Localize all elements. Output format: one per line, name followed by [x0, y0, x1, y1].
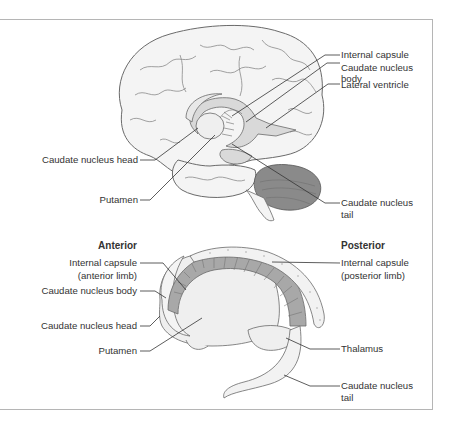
label-caudate-head: Caudate nucleus head: [42, 154, 138, 166]
label-caudate-tail-bottom-line2: tail: [341, 392, 353, 404]
label-putamen: Putamen: [100, 194, 138, 206]
label-ic-anterior-line2: (anterior limb): [78, 270, 137, 282]
heading-anterior: Anterior: [98, 240, 137, 252]
label-caudate-body-bottom: Caudate nucleus body: [42, 285, 137, 297]
label-caudate-tail-line2: tail: [341, 209, 353, 221]
label-caudate-head-bottom: Caudate nucleus head: [41, 320, 137, 332]
label-thalamus: Thalamus: [341, 343, 383, 355]
label-putamen-bottom: Putamen: [99, 345, 137, 357]
label-lateral-ventricle: Lateral ventricle: [341, 79, 409, 91]
heading-posterior: Posterior: [341, 240, 385, 252]
label-ic-posterior: Internal capsule: [341, 257, 409, 269]
label-caudate-tail: Caudate nucleus: [341, 197, 413, 209]
basal-nuclei-illustration: [160, 247, 325, 398]
label-caudate-tail-bottom: Caudate nucleus: [341, 380, 413, 392]
label-ic-anterior: Internal capsule: [69, 257, 137, 269]
label-internal-capsule: Internal capsule: [341, 49, 409, 61]
brain-illustration: [119, 25, 323, 220]
label-ic-posterior-line2: (posterior limb): [341, 270, 405, 282]
